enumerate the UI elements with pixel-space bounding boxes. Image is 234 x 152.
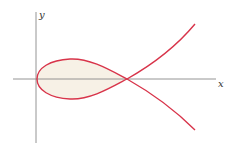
- x-axis-label: x: [218, 78, 224, 89]
- curve-diagram: y x: [0, 0, 234, 152]
- y-axis-label: y: [38, 9, 45, 20]
